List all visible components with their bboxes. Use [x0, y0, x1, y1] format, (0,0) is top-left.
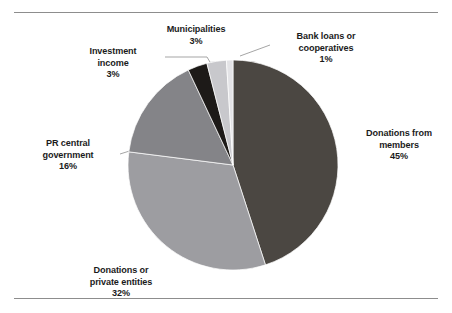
slice-label-donations-from-members: Donations from members 45%: [348, 128, 450, 163]
slice-label-municipalities: Municipalities 3%: [143, 24, 249, 47]
pie-slices-group: [128, 60, 338, 270]
chart-page: Municipalities 3% Bank loans or cooperat…: [0, 0, 452, 313]
slice-label-investment-income: Investment income 3%: [61, 46, 165, 81]
slice-label-donations-or-private-entities: Donations or private entities 32%: [58, 265, 184, 300]
slice-label-pr-central-government: PR central government 16%: [16, 138, 120, 173]
slice-label-bank-loans-or-cooperatives: Bank loans or cooperatives 1%: [272, 31, 380, 66]
pie-chart: Municipalities 3% Bank loans or cooperat…: [0, 12, 452, 298]
